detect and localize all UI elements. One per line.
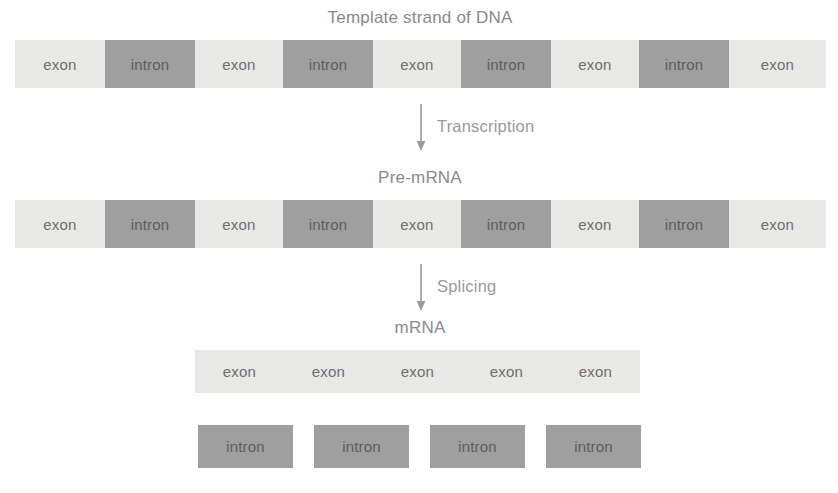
pre-mrna-segment-intron-8: intron xyxy=(639,200,729,248)
pre-mrna-segment-exon-5: exon xyxy=(373,200,461,248)
dna-segment-exon-9: exon xyxy=(729,40,826,88)
intron-gap-2 xyxy=(409,425,430,468)
mrna-segment-exon-2: exon xyxy=(284,350,373,393)
transcription-label: Transcription xyxy=(437,117,534,136)
mrna-segment-exon-4: exon xyxy=(462,350,551,393)
pre-mrna-segment-intron-6: intron xyxy=(461,200,551,248)
splicing-label: Splicing xyxy=(437,277,496,296)
intron-gap-3 xyxy=(525,425,546,468)
excised-introns-row: intronintronintronintron xyxy=(198,425,640,468)
page-title: Template strand of DNA xyxy=(328,8,513,28)
dna-segment-exon-5: exon xyxy=(373,40,461,88)
transcription-arrow-icon xyxy=(414,104,428,152)
mrna-caption: mRNA xyxy=(395,318,446,338)
pre-mrna-caption: Pre-mRNA xyxy=(378,168,462,188)
dna-template-strand: exonintronexonintronexonintronexonintron… xyxy=(15,40,826,88)
dna-segment-intron-2: intron xyxy=(105,40,195,88)
splicing-arrow-icon xyxy=(414,264,428,312)
mrna-strand: exonexonexonexonexon xyxy=(195,350,640,393)
pre-mrna-segment-exon-1: exon xyxy=(15,200,105,248)
excised-intron-1: intron xyxy=(198,425,293,468)
dna-segment-intron-4: intron xyxy=(283,40,373,88)
excised-intron-2: intron xyxy=(314,425,409,468)
excised-intron-3: intron xyxy=(430,425,525,468)
dna-segment-intron-6: intron xyxy=(461,40,551,88)
pre-mrna-segment-intron-4: intron xyxy=(283,200,373,248)
intron-gap-1 xyxy=(293,425,314,468)
excised-intron-4: intron xyxy=(546,425,641,468)
dna-segment-intron-8: intron xyxy=(639,40,729,88)
pre-mrna-strand: exonintronexonintronexonintronexonintron… xyxy=(15,200,826,248)
dna-segment-exon-1: exon xyxy=(15,40,105,88)
mrna-segment-exon-5: exon xyxy=(551,350,640,393)
pre-mrna-segment-exon-9: exon xyxy=(729,200,826,248)
splicing-diagram: Template strand of DNA exonintronexonint… xyxy=(0,0,838,493)
pre-mrna-segment-exon-7: exon xyxy=(551,200,639,248)
dna-segment-exon-7: exon xyxy=(551,40,639,88)
pre-mrna-segment-exon-3: exon xyxy=(195,200,283,248)
mrna-segment-exon-1: exon xyxy=(195,350,284,393)
pre-mrna-segment-intron-2: intron xyxy=(105,200,195,248)
dna-segment-exon-3: exon xyxy=(195,40,283,88)
mrna-segment-exon-3: exon xyxy=(373,350,462,393)
